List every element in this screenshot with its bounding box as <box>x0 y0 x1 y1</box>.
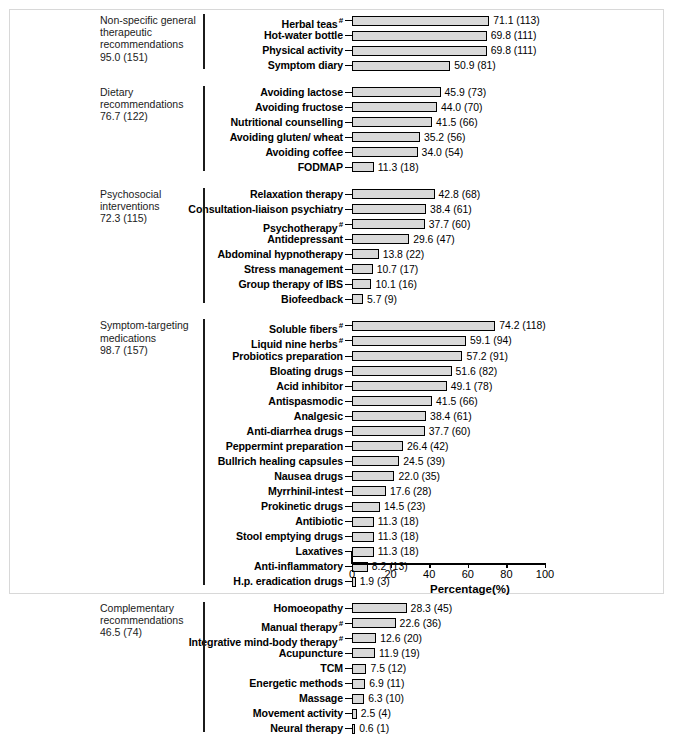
bar-category-label: Stool emptying drugs <box>236 529 343 544</box>
bar <box>352 204 426 214</box>
bar-row: Laxatives11.3 (18) <box>0 544 673 559</box>
bar <box>352 117 432 127</box>
bar-category-label: Homoeopathy <box>273 601 343 616</box>
bar-value-label: 11.3 (18) <box>378 529 419 544</box>
bar-row: Acupuncture11.9 (19) <box>0 646 673 661</box>
bar-value-label: 11.3 (18) <box>378 160 419 175</box>
footnote-marker: # <box>339 336 343 345</box>
y-axis-tick <box>345 224 352 225</box>
y-axis-tick <box>345 506 352 507</box>
y-axis-tick <box>345 581 352 582</box>
bar <box>352 321 495 331</box>
bar-value-label: 6.9 (11) <box>369 676 404 691</box>
bar-row: Avoiding gluten/ wheat35.2 (56) <box>0 130 673 145</box>
y-axis-tick <box>345 122 352 123</box>
bar <box>352 426 425 436</box>
bar <box>352 532 374 542</box>
bar-category-label: Relaxation therapy <box>250 187 343 202</box>
bar-value-label: 5.7 (9) <box>367 292 397 307</box>
bar-category-label: Hot-water bottle <box>264 28 343 43</box>
y-axis-tick <box>345 50 352 51</box>
bar-value-label: 0.6 (1) <box>359 721 389 736</box>
y-axis-tick <box>345 416 352 417</box>
x-axis-tick-label: 100 <box>536 568 554 580</box>
bar-category-label: Antibiotic <box>295 514 343 529</box>
bar-category-label: Movement activity <box>253 706 343 721</box>
bar-row: H.p. eradication drugs1.9 (3) <box>0 574 673 589</box>
bar-value-label: 34.0 (54) <box>422 145 464 160</box>
group-name: Complementary recommendations <box>100 602 200 626</box>
bar-row: Biofeedback5.7 (9) <box>0 292 673 307</box>
bar <box>352 679 365 689</box>
bar-category-label: Avoiding fructose <box>255 100 343 115</box>
bar <box>352 46 487 56</box>
bar-category-label: Biofeedback <box>281 292 343 307</box>
y-axis-tick <box>345 431 352 432</box>
y-axis-tick <box>345 152 352 153</box>
bar-category-label: Group therapy of IBS <box>238 277 343 292</box>
bar-category-label: Soluble fibers# <box>269 318 343 333</box>
y-axis-tick <box>345 356 352 357</box>
bar-value-label: 28.3 (45) <box>411 601 453 616</box>
bar-category-label: TCM <box>320 661 343 676</box>
x-axis-title: Percentage(%) <box>430 583 510 595</box>
bar-value-label: 59.1 (94) <box>470 333 512 348</box>
bar-category-label: Avoiding gluten/ wheat <box>230 130 343 145</box>
y-axis-tick <box>345 239 352 240</box>
bar-row: Avoiding coffee34.0 (54) <box>0 145 673 160</box>
y-axis-tick <box>345 20 352 21</box>
group-summary: 95.0 (151) <box>100 51 200 63</box>
y-axis-tick <box>345 491 352 492</box>
footnote-marker: # <box>339 321 343 330</box>
bar-category-label: Abdominal hypnotherapy <box>217 247 343 262</box>
bar-value-label: 57.2 (91) <box>466 349 508 364</box>
bar <box>352 162 374 172</box>
bar-value-label: 41.5 (66) <box>436 394 478 409</box>
bar-row: Peppermint preparation26.4 (42) <box>0 439 673 454</box>
y-axis-tick <box>345 299 352 300</box>
y-axis-tick <box>345 209 352 210</box>
y-axis-tick <box>345 536 352 537</box>
footnote-marker: # <box>339 634 343 643</box>
bar-row: Massage6.3 (10) <box>0 691 673 706</box>
bar <box>352 486 386 496</box>
bar <box>352 87 441 97</box>
x-axis-tick-label: 60 <box>462 568 474 580</box>
bar-category-label: Symptom diary <box>268 58 343 73</box>
bar-value-label: 13.8 (22) <box>383 247 425 262</box>
bar <box>352 366 452 376</box>
y-axis-tick <box>345 371 352 372</box>
group-bracket-line <box>203 188 205 303</box>
bar-value-label: 2.5 (4) <box>361 706 391 721</box>
bar-category-label: Neural therapy <box>270 721 343 736</box>
y-axis-tick <box>345 446 352 447</box>
bar <box>352 547 374 557</box>
bar-category-label: Myrrhinil-intest <box>268 484 343 499</box>
y-axis-tick <box>345 653 352 654</box>
y-axis-tick <box>345 35 352 36</box>
bar-category-label: Analgesic <box>294 409 343 424</box>
y-axis-tick <box>345 728 352 729</box>
bar-category-label: Avoiding coffee <box>265 145 343 160</box>
x-axis-tick-label: 40 <box>423 568 435 580</box>
bar-value-label: 6.3 (10) <box>368 691 404 706</box>
bar <box>352 102 437 112</box>
bar <box>352 132 420 142</box>
bar-row: Acid inhibitor49.1 (78) <box>0 379 673 394</box>
bar-value-label: 44.0 (70) <box>441 100 483 115</box>
bar <box>352 219 425 229</box>
bar <box>352 411 426 421</box>
bar-row: Anti-diarrhea drugs37.7 (60) <box>0 424 673 439</box>
bar-value-label: 38.4 (61) <box>430 409 472 424</box>
bar <box>352 517 374 527</box>
bar-value-label: 74.2 (118) <box>499 318 546 333</box>
bar-category-label: Antispasmodic <box>268 394 343 409</box>
y-axis-tick <box>345 340 352 341</box>
y-axis-tick <box>345 638 352 639</box>
bar-category-label: Nutritional counselling <box>231 115 343 130</box>
bar-value-label: 22.0 (35) <box>398 469 440 484</box>
y-axis-tick <box>345 386 352 387</box>
bar-category-label: Bullrich healing capsules <box>218 454 343 469</box>
